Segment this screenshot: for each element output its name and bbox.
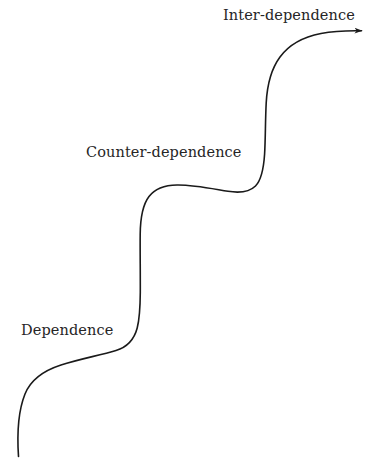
curve-stroke-path	[18, 31, 362, 457]
label-counter-dependence: Counter-dependence	[86, 145, 242, 160]
label-dependence: Dependence	[21, 323, 113, 338]
label-inter-dependence: Inter-dependence	[223, 8, 355, 23]
maturity-continuum-curve	[0, 0, 382, 462]
diagram-canvas: Inter-dependence Counter-dependence Depe…	[0, 0, 382, 462]
